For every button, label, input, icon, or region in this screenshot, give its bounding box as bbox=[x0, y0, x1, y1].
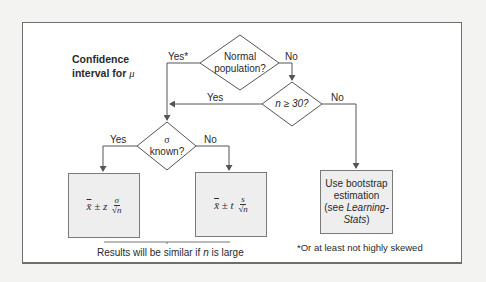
sigma-known-label: σ known? bbox=[140, 134, 194, 158]
edge-label-n30-no: No bbox=[331, 92, 344, 104]
fraction-denominator: √n bbox=[112, 206, 121, 215]
normal-line-1: Normal bbox=[224, 51, 256, 62]
normal-line-2: population? bbox=[214, 63, 266, 74]
learningstats-ref-part2: Stats bbox=[343, 214, 366, 225]
plus-minus-t: ± t bbox=[219, 199, 236, 211]
fraction-denominator: √n bbox=[238, 205, 247, 214]
edge-label-n30-yes: Yes bbox=[207, 92, 223, 104]
diagram-title: Confidence interval for μ bbox=[72, 52, 134, 81]
bootstrap-line-1: Use bootstrap bbox=[325, 178, 387, 189]
bootstrap-line-2: estimation bbox=[334, 190, 380, 201]
bootstrap-line-3-prefix: (see bbox=[324, 202, 346, 213]
normal-population-label: Normal population? bbox=[205, 51, 275, 75]
t-interval-formula: x̄ ± t s √n bbox=[214, 195, 248, 214]
flowchart-connectors bbox=[0, 0, 486, 282]
learningstats-ref-part1: Learning- bbox=[346, 202, 388, 213]
note-prefix: Results will be similar if bbox=[97, 247, 203, 258]
results-similar-note: Results will be similar if n is large bbox=[97, 247, 244, 259]
s-over-root-n: s √n bbox=[238, 195, 247, 214]
bootstrap-line-4-suffix: ) bbox=[366, 214, 369, 225]
edge-label-sigma-yes: Yes bbox=[110, 134, 126, 146]
sigma-line-2: known? bbox=[150, 146, 184, 157]
t-interval-box: x̄ ± t s √n bbox=[195, 172, 267, 237]
bootstrap-box: Use bootstrap estimation (see Learning- … bbox=[320, 170, 393, 234]
edge-label-normal-no: No bbox=[285, 51, 298, 63]
edge-label-sigma-no: No bbox=[204, 134, 217, 146]
z-interval-box: x̄ ± z σ √n bbox=[68, 173, 140, 238]
z-interval-formula: x̄ ± z σ √n bbox=[87, 196, 122, 215]
sigma-symbol: σ bbox=[164, 134, 169, 145]
bootstrap-text: Use bootstrap estimation (see Learning- … bbox=[324, 178, 389, 226]
sigma-over-root-n: σ √n bbox=[112, 196, 121, 215]
note-suffix: is large bbox=[209, 247, 244, 258]
edge-label-normal-yes: Yes* bbox=[168, 51, 188, 63]
title-line-2: interval for bbox=[72, 67, 126, 79]
title-line-1: Confidence bbox=[72, 53, 129, 65]
footnote: *Or at least not highly skewed bbox=[297, 242, 423, 254]
n30-label: n ≥ 30? bbox=[265, 98, 319, 110]
plus-minus-z: ± z bbox=[91, 200, 110, 212]
mu-symbol: μ bbox=[129, 68, 134, 79]
